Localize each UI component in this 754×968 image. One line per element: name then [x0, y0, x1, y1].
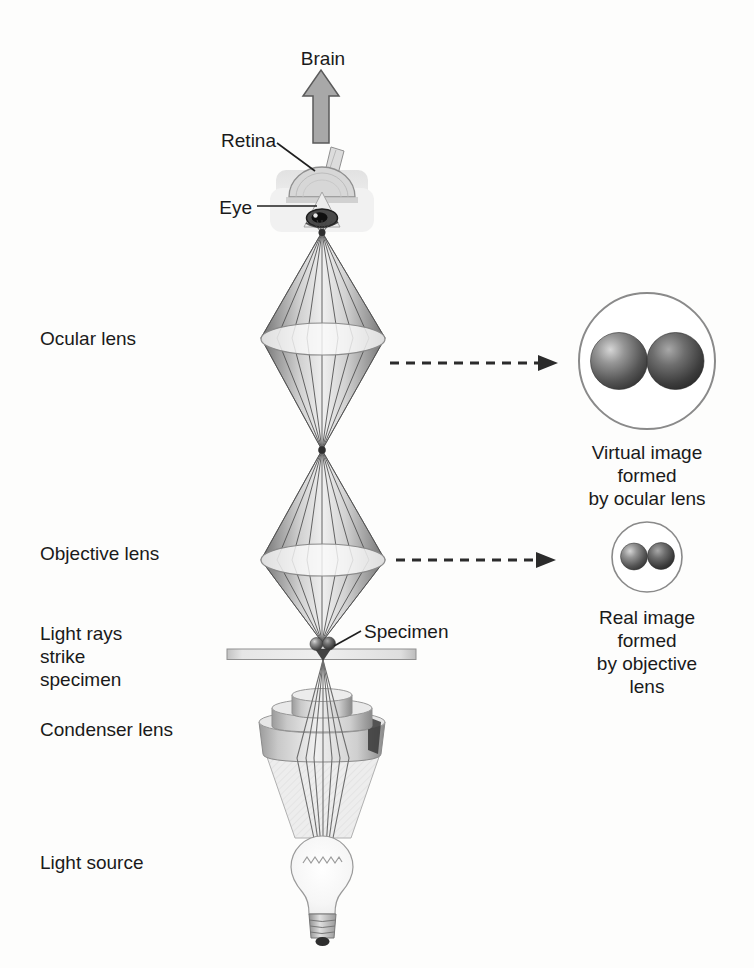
real-image-cell-left: [621, 543, 648, 570]
objective-lens-label: Objective lens: [40, 542, 159, 565]
objective-lens-cone: [261, 446, 385, 642]
specimen-label: Specimen: [364, 620, 449, 643]
ocular-lens-glass: [261, 323, 385, 355]
arrowhead-right-icon: [538, 355, 558, 371]
condenser-lens-label: Condenser lens: [40, 718, 173, 741]
virtual-image-cell-left: [591, 333, 648, 390]
bulb-contact: [316, 937, 330, 946]
condenser-top-cylinder-cap: [292, 689, 352, 702]
objective-lens-glass: [261, 544, 385, 576]
specimen-cell-left: [310, 638, 323, 651]
retina-label: Retina: [214, 129, 276, 152]
focal-point-top: [319, 229, 326, 236]
real-image-point: [318, 446, 326, 454]
light-source-label: Light source: [40, 851, 144, 874]
ocular-lens-cone: [261, 220, 385, 450]
virtual-image-circle: [579, 293, 715, 429]
condenser-lens-illustration: [259, 689, 385, 839]
up-arrow-icon: [303, 70, 339, 143]
retina-pointer-line: [277, 143, 315, 171]
light-bulb-illustration: [291, 836, 353, 946]
real-image-cell-right: [648, 543, 675, 570]
specimen-cell-right: [323, 637, 336, 650]
ocular-lens-label: Ocular lens: [40, 327, 136, 350]
dashed-arrow-ocular: [390, 355, 558, 371]
brain-arrow: [303, 70, 339, 143]
light-rays-strike-specimen-label: Light rays strike specimen: [40, 622, 122, 691]
pupil-highlight: [313, 213, 317, 217]
specimen-pointer-line: [334, 631, 361, 646]
eye-label: Eye: [214, 196, 252, 219]
bulb-screw-base: [309, 914, 336, 938]
bulb-glass: [291, 836, 353, 914]
microscope-light-path-diagram: Brain Retina Eye Ocular lens Objective l…: [0, 0, 754, 968]
eye-illustration: [270, 147, 374, 232]
dashed-arrow-objective: [396, 552, 556, 568]
pupil: [312, 212, 328, 222]
virtual-image-caption: Virtual image formed by ocular lens: [555, 441, 739, 510]
brain-label: Brain: [285, 47, 361, 70]
real-image-caption: Real image formed by objective lens: [557, 606, 737, 698]
arrowhead-right-icon: [536, 552, 556, 568]
virtual-image-cell-right: [647, 333, 704, 390]
real-image-circle: [612, 522, 682, 592]
